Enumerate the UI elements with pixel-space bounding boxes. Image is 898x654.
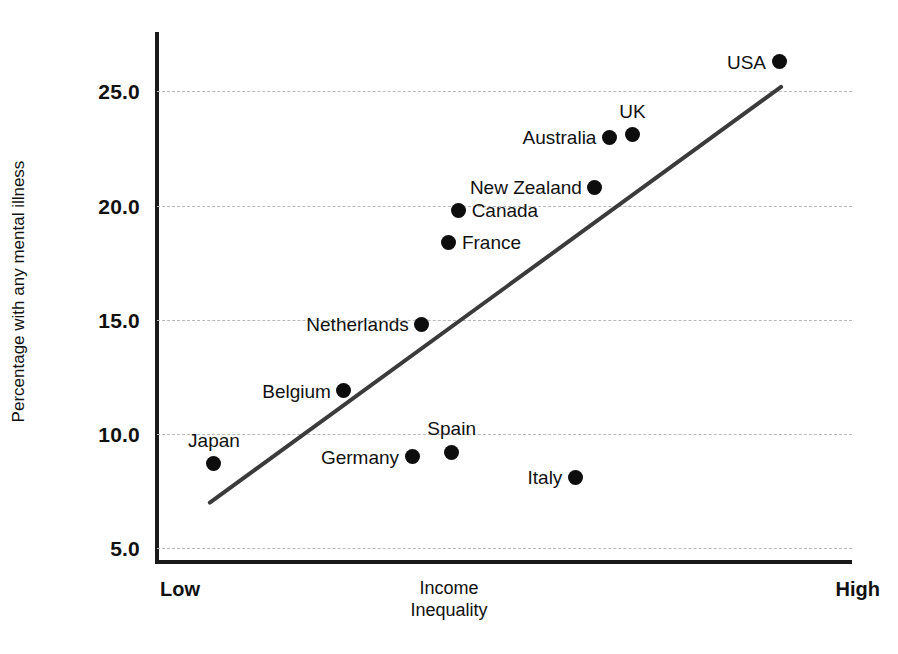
data-point-label-canada: Canada	[472, 201, 539, 220]
data-point-usa[interactable]	[772, 54, 787, 69]
data-point-australia[interactable]	[602, 130, 617, 145]
trendline-segment	[210, 87, 781, 503]
trendline	[157, 32, 852, 562]
data-point-label-japan: Japan	[188, 431, 240, 450]
data-point-spain[interactable]	[444, 445, 459, 460]
x-axis-title-line1: Income	[0, 578, 898, 600]
plot-area: USAUKAustraliaNew ZealandCanadaFranceNet…	[157, 32, 852, 562]
data-point-italy[interactable]	[568, 470, 583, 485]
y-axis-tick-label: 15.0	[0, 310, 152, 331]
data-point-label-spain: Spain	[427, 419, 476, 438]
x-axis-title: Income Inequality	[0, 578, 898, 622]
data-point-canada[interactable]	[451, 203, 466, 218]
data-point-label-belgium: Belgium	[262, 381, 331, 400]
y-axis-tick-label: 10.0	[0, 424, 152, 445]
data-point-label-germany: Germany	[321, 447, 399, 466]
data-point-label-france: France	[462, 233, 521, 252]
y-axis-tick-label: 5.0	[0, 538, 152, 559]
data-point-label-uk: UK	[619, 102, 645, 121]
x-axis-high-label: High	[836, 578, 880, 601]
data-point-label-australia: Australia	[523, 128, 597, 147]
data-point-germany[interactable]	[405, 449, 420, 464]
scatter-chart-figure: Percentage with any mental illness 5.010…	[0, 0, 898, 654]
data-point-label-new-zealand: New Zealand	[470, 178, 582, 197]
data-point-label-usa: USA	[727, 52, 766, 71]
data-point-label-italy: Italy	[528, 468, 563, 487]
y-axis-tick-label: 25.0	[0, 81, 152, 102]
data-point-label-netherlands: Netherlands	[306, 315, 408, 334]
data-point-france[interactable]	[441, 235, 456, 250]
x-axis-title-line2: Inequality	[0, 600, 898, 622]
y-axis-tick-label: 20.0	[0, 196, 152, 217]
